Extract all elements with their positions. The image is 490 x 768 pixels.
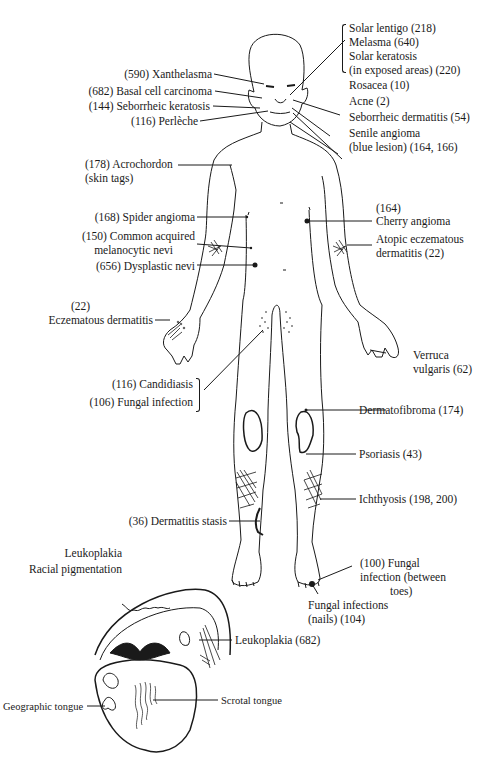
label-dysplastic-nevi: (656) Dysplastic nevi — [96, 259, 195, 273]
label-seborrheic-dermatitis: Seborrheic dermatitis (54) — [349, 110, 470, 124]
label-nevi-1: (150) Common acquired — [82, 229, 195, 243]
label-cherry-num: (164) — [376, 201, 401, 215]
label-rosacea: Rosacea (10) — [349, 78, 409, 92]
label-fungal-infection: (106) Fungal infection — [90, 395, 193, 409]
candidiasis-bracket — [196, 378, 200, 412]
label-seborrheic-keratosis: (144) Seborrheic keratosis — [89, 99, 210, 113]
label-senile-angioma-1: Senile angioma — [349, 126, 420, 140]
label-solar-lentigo: Solar lentigo (218) — [349, 21, 436, 35]
label-dermatitis-stasis: (36) Dermatitis stasis — [129, 514, 227, 528]
label-perleche: (116) Perlèche — [131, 114, 198, 128]
label-atopic-1: Atopic eczematous — [376, 232, 464, 246]
label-atopic-2: dermatitis (22) — [376, 246, 444, 260]
label-dermatofibroma: Dermatofibroma (174) — [359, 403, 463, 417]
label-eczematous-num: (22) — [71, 299, 90, 313]
label-eczematous: Eczematous dermatitis — [49, 313, 153, 327]
label-verruca-1: Verruca — [413, 348, 449, 362]
psoriasis-patches — [244, 411, 314, 453]
label-basal-cell: (682) Basal cell carcinoma — [88, 84, 212, 98]
label-acrochordon-1: (178) Acrochordon — [85, 157, 173, 171]
solar-bracket — [342, 24, 346, 73]
label-xanthelasma: (590) Xanthelasma — [124, 67, 212, 81]
label-ichthyosis: Ichthyosis (198, 200) — [359, 492, 457, 506]
label-senile-angioma-2: (blue lesion) (164, 166) — [349, 140, 458, 154]
label-fungal-toes-3: toes) — [390, 584, 412, 598]
label-fungal-toes-2: infection (between — [360, 570, 446, 584]
mouth-diagram — [87, 589, 232, 751]
scrotal-fissures — [135, 682, 157, 729]
label-cherry-angioma: Cherry angioma — [376, 214, 450, 228]
label-fungal-nails-2: (nails) (104) — [308, 612, 365, 626]
label-leukoplakia-header: Leukoplakia — [65, 546, 122, 560]
label-racial-pigmentation: Racial pigmentation — [29, 562, 122, 576]
hand-eczema-texture — [168, 321, 185, 340]
label-psoriasis: Psoriasis (43) — [359, 447, 422, 461]
label-acrochordon-2: (skin tags) — [85, 171, 133, 185]
label-verruca-2: vulgaris (62) — [413, 362, 472, 376]
label-scrotal-tongue: Scrotal tongue — [221, 694, 282, 708]
label-solar-keratosis-1: Solar keratosis — [349, 49, 417, 63]
label-acne: Acne (2) — [349, 94, 390, 108]
label-fungal-toes-1: (100) Fungal — [360, 556, 420, 570]
label-candidiasis: (116) Candidiasis — [112, 377, 193, 391]
groin-stipple — [259, 311, 293, 333]
label-melasma: Melasma (640) — [349, 35, 419, 49]
label-fungal-nails-1: Fungal infections — [308, 598, 388, 612]
torso-outline — [205, 122, 346, 305]
label-spider-angioma: (168) Spider angioma — [95, 210, 195, 224]
label-solar-keratosis-2: (in exposed areas) (220) — [349, 63, 460, 77]
lesion-dots — [246, 216, 315, 587]
label-leukoplakia: Leukoplakia (682) — [235, 633, 320, 647]
ichthyosis-texture — [236, 470, 322, 508]
label-nevi-2: melanocytic nevi — [94, 243, 173, 257]
label-geographic-tongue: Geographic tongue — [3, 700, 83, 714]
